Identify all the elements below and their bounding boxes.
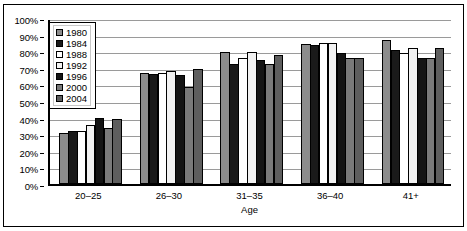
legend-swatch-icon xyxy=(56,95,63,102)
y-axis-tick-mark xyxy=(40,169,44,170)
bar-chart-figure: 100%90%80%70%60%50%40%30%20%10%0% 198019… xyxy=(0,0,467,231)
y-axis-labels: 100%90%80%70%60%50%40%30%20%10%0% xyxy=(6,20,44,186)
x-axis-tick-label: 41+ xyxy=(403,190,419,201)
legend-item: 1988 xyxy=(56,49,87,60)
y-axis-tick-mark xyxy=(40,186,44,187)
y-axis-tick-mark xyxy=(40,86,44,87)
bar xyxy=(435,48,444,184)
legend-swatch-icon xyxy=(56,84,63,91)
legend-swatch-icon xyxy=(56,40,63,47)
x-axis-labels: 20–2526–3031–3536–4041+ xyxy=(48,190,451,204)
y-axis-tick-label: 80% xyxy=(20,48,38,59)
legend-item: 2000 xyxy=(56,82,87,93)
chart-legend: 1980198419881992199620002004 xyxy=(49,22,96,109)
legend-swatch-icon xyxy=(56,62,63,69)
legend-item-label: 2000 xyxy=(66,82,87,93)
legend-swatch-icon xyxy=(56,29,63,36)
y-axis-tick-label: 40% xyxy=(20,114,38,125)
bar xyxy=(193,69,202,184)
y-axis-tick-label: 100% xyxy=(15,15,39,26)
y-axis-tick-label: 60% xyxy=(20,81,38,92)
y-axis-tick-label: 20% xyxy=(20,147,38,158)
bars-layer xyxy=(50,20,451,184)
y-axis-tick-label: 90% xyxy=(20,31,38,42)
y-axis-tick-mark xyxy=(40,120,44,121)
legend-item: 1996 xyxy=(56,71,87,82)
x-axis-tick-label: 36–40 xyxy=(317,190,343,201)
y-axis-tick-label: 70% xyxy=(20,64,38,75)
legend-item-label: 2004 xyxy=(66,93,87,104)
x-axis-title: Age xyxy=(48,204,451,215)
legend-item-label: 1980 xyxy=(66,27,87,38)
plot-area xyxy=(48,20,451,186)
y-axis-tick-mark xyxy=(40,53,44,54)
y-axis-tick-mark xyxy=(40,153,44,154)
y-axis-tick-label: 30% xyxy=(20,131,38,142)
y-axis-tick-mark xyxy=(40,70,44,71)
y-axis-tick-label: 0% xyxy=(25,181,38,192)
legend-item-label: 1984 xyxy=(66,38,87,49)
legend-swatch-icon xyxy=(56,51,63,58)
legend-item-label: 1992 xyxy=(66,60,87,71)
legend-item: 1992 xyxy=(56,60,87,71)
bar xyxy=(354,58,363,184)
x-axis-tick-label: 26–30 xyxy=(156,190,182,201)
y-axis-tick-mark xyxy=(40,136,44,137)
y-axis-tick-label: 50% xyxy=(20,98,38,109)
legend-item-label: 1988 xyxy=(66,49,87,60)
legend-item: 2004 xyxy=(56,93,87,104)
legend-swatch-icon xyxy=(56,73,63,80)
y-axis-tick-label: 10% xyxy=(20,164,38,175)
legend-item-label: 1996 xyxy=(66,71,87,82)
legend-item: 1980 xyxy=(56,27,87,38)
bar xyxy=(112,119,121,184)
legend-item: 1984 xyxy=(56,38,87,49)
x-axis-tick-label: 20–25 xyxy=(75,190,101,201)
x-axis-tick-label: 31–35 xyxy=(236,190,262,201)
y-axis-tick-mark xyxy=(40,37,44,38)
y-axis-tick-mark xyxy=(40,103,44,104)
y-axis-tick-mark xyxy=(40,20,44,21)
chart-legend-items: 1980198419881992199620002004 xyxy=(53,25,91,106)
bar xyxy=(274,55,283,184)
